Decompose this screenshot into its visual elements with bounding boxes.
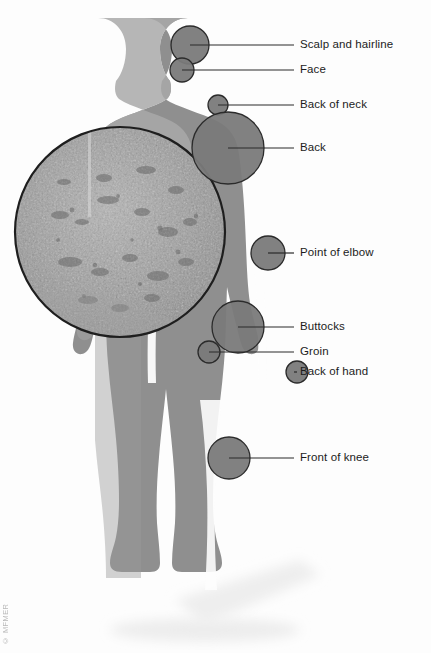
label-back: Back bbox=[300, 142, 326, 154]
label-scalp-and-hairline: Scalp and hairline bbox=[300, 39, 393, 51]
copyright-credit: © MFMER bbox=[1, 575, 15, 645]
marker-back[interactable] bbox=[192, 112, 294, 184]
marker-back-of-neck[interactable] bbox=[208, 95, 294, 115]
marker-buttocks[interactable] bbox=[212, 301, 294, 353]
marker-scalp-and-hairline[interactable] bbox=[171, 26, 294, 64]
label-groin: Groin bbox=[300, 346, 329, 358]
marker-point-of-elbow[interactable] bbox=[251, 236, 294, 270]
marker-face[interactable] bbox=[170, 58, 294, 82]
label-back-of-neck: Back of neck bbox=[300, 99, 367, 111]
label-face: Face bbox=[300, 64, 326, 76]
label-point-of-elbow: Point of elbow bbox=[300, 247, 374, 259]
label-back-of-hand: Back of hand bbox=[300, 366, 368, 378]
marker-front-of-knee[interactable] bbox=[208, 437, 294, 479]
label-front-of-knee: Front of knee bbox=[300, 452, 369, 464]
label-buttocks: Buttocks bbox=[300, 321, 345, 333]
psoriasis-body-map-figure: Scalp and hairlineFaceBack of neckBackPo… bbox=[0, 0, 431, 653]
